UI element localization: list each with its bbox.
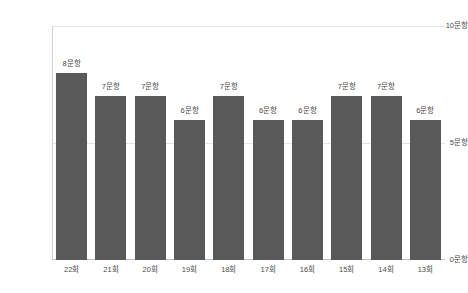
- bar[interactable]: [371, 96, 402, 260]
- bar[interactable]: [95, 96, 126, 260]
- x-tick-label: 16회: [288, 265, 327, 274]
- bar-value-label: 7문항: [91, 82, 130, 91]
- bar-value-label: 6문항: [288, 106, 327, 115]
- bars-layer: 8문항 7문항 7문항 6문항 7문항 6문항 6문항 7문항: [52, 26, 445, 260]
- bar-value-label: 8문항: [52, 59, 91, 68]
- bar-value-label: 6문항: [170, 106, 209, 115]
- bar[interactable]: [135, 96, 166, 260]
- bar-value-label: 6문항: [249, 106, 288, 115]
- x-tick-label: 19회: [170, 265, 209, 274]
- bar-value-label: 7문항: [366, 82, 405, 91]
- x-tick-label: 14회: [366, 265, 405, 274]
- x-tick-label: 15회: [327, 265, 366, 274]
- x-tick-label: 20회: [131, 265, 170, 274]
- bar[interactable]: [253, 120, 284, 260]
- x-tick-label: 21회: [91, 265, 130, 274]
- bar[interactable]: [213, 96, 244, 260]
- bar[interactable]: [174, 120, 205, 260]
- x-tick-label: 22회: [52, 265, 91, 274]
- x-tick-label: 18회: [209, 265, 248, 274]
- bar-value-label: 7문항: [131, 82, 170, 91]
- bar-value-label: 7문항: [327, 82, 366, 91]
- bar[interactable]: [410, 120, 441, 260]
- bar[interactable]: [292, 120, 323, 260]
- bar-chart: 10문항 5문항 0문항 8문항 7문항 7문항 6문항 7문항 6: [0, 0, 468, 293]
- x-tick-label: 13회: [406, 265, 445, 274]
- bar[interactable]: [56, 73, 87, 260]
- bar-value-label: 7문항: [209, 82, 248, 91]
- bar[interactable]: [331, 96, 362, 260]
- x-tick-label: 17회: [249, 265, 288, 274]
- bar-value-label: 6문항: [406, 106, 445, 115]
